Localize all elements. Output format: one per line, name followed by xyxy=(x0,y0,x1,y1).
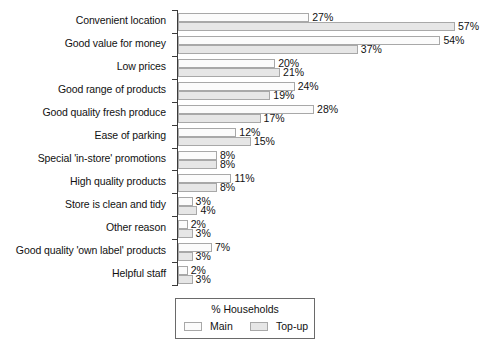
chart-legend: % Households MainTop-up xyxy=(175,298,315,339)
bar-value-label: 21% xyxy=(283,67,304,77)
bar-main xyxy=(178,36,440,45)
bar-topup xyxy=(178,22,455,31)
bar-value-label: 54% xyxy=(443,35,464,45)
category-label: High quality products xyxy=(0,176,166,187)
category-label: Good value for money xyxy=(0,38,166,49)
bar-value-label: 3% xyxy=(196,274,211,284)
bar-value-label: 15% xyxy=(254,136,275,146)
plot-area: Convenient locationGood value for moneyL… xyxy=(0,0,499,292)
bar-topup xyxy=(178,137,251,146)
legend-label: Top-up xyxy=(276,320,308,333)
bar-chart: Convenient locationGood value for moneyL… xyxy=(0,0,499,351)
legend-items: MainTop-up xyxy=(176,320,314,336)
bar-value-label: 11% xyxy=(234,173,254,183)
bar-value-label: 4% xyxy=(200,205,215,215)
legend-label: Main xyxy=(210,320,233,333)
axis-tick xyxy=(172,285,178,286)
bar-topup xyxy=(178,252,193,261)
bar-main xyxy=(178,266,188,275)
category-label: Low prices xyxy=(0,61,166,72)
bar-main xyxy=(178,128,236,137)
category-label: Good quality fresh produce xyxy=(0,107,166,118)
bar-value-label: 3% xyxy=(196,228,211,238)
category-label: Good range of products xyxy=(0,84,166,95)
bar-topup xyxy=(178,183,217,192)
bar-main xyxy=(178,105,314,114)
bars-container: 27%57%54%37%20%21%24%19%28%17%12%15%8%8%… xyxy=(178,10,498,285)
category-label: Ease of parking xyxy=(0,130,166,141)
category-label: Convenient location xyxy=(0,15,166,26)
bar-value-label: 37% xyxy=(361,44,382,54)
category-label: Good quality 'own label' products xyxy=(0,245,166,256)
category-axis-labels: Convenient locationGood value for moneyL… xyxy=(0,10,172,285)
bar-value-label: 19% xyxy=(273,90,294,100)
bar-topup xyxy=(178,68,280,77)
bar-value-label: 24% xyxy=(298,81,319,91)
bar-main xyxy=(178,13,309,22)
bar-value-label: 8% xyxy=(220,182,235,192)
bar-value-label: 7% xyxy=(215,242,230,252)
bar-topup xyxy=(178,206,197,215)
legend-swatch-icon xyxy=(250,322,268,331)
bar-value-label: 3% xyxy=(196,251,211,261)
category-label: Other reason xyxy=(0,222,166,233)
bar-value-label: 17% xyxy=(264,113,285,123)
bar-main xyxy=(178,151,217,160)
legend-swatch-icon xyxy=(184,322,202,331)
bar-topup xyxy=(178,275,193,284)
bar-value-label: 27% xyxy=(312,12,333,22)
bar-topup xyxy=(178,91,270,100)
bar-topup xyxy=(178,114,261,123)
bar-main xyxy=(178,197,193,206)
bar-value-label: 28% xyxy=(317,104,338,114)
category-label: Store is clean and tidy xyxy=(0,199,166,210)
bar-main xyxy=(178,220,188,229)
bar-topup xyxy=(178,160,217,169)
bar-topup xyxy=(178,45,358,54)
legend-title: % Households xyxy=(176,303,314,315)
bar-main xyxy=(178,59,275,68)
category-label: Special 'in-store' promotions xyxy=(0,153,166,164)
bar-topup xyxy=(178,229,193,238)
bar-value-label: 57% xyxy=(458,21,479,31)
category-label: Helpful staff xyxy=(0,268,166,279)
bar-value-label: 8% xyxy=(220,159,235,169)
